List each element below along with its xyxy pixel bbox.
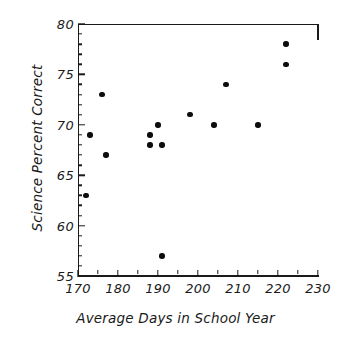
data-point	[223, 82, 228, 87]
scatter-plot-figure: 556065707580 170180190200210220230 Avera…	[0, 0, 351, 341]
data-point	[147, 132, 152, 137]
x-axis-title: Average Days in School Year	[0, 310, 351, 326]
y-axis-title: Science Percent Correct	[29, 48, 45, 248]
data-point	[283, 62, 288, 67]
data-point	[155, 122, 160, 127]
data-point	[87, 132, 92, 137]
y-tick-label: 80	[57, 17, 74, 32]
data-point	[255, 122, 260, 127]
y-tick-label: 75	[57, 67, 74, 82]
x-tick-label: 210	[225, 281, 251, 296]
y-tick-label: 60	[57, 218, 74, 233]
y-tick-label: 70	[57, 117, 74, 132]
x-tick-label: 180	[105, 281, 131, 296]
data-point	[83, 193, 88, 198]
data-point	[283, 41, 288, 46]
data-point	[99, 92, 104, 97]
x-tick-label: 200	[185, 281, 211, 296]
x-tick-label: 170	[65, 281, 91, 296]
data-point	[159, 142, 164, 147]
x-axis-tick-labels: 170180190200210220230	[78, 281, 319, 301]
x-tick-label: 220	[265, 281, 291, 296]
data-point	[187, 112, 192, 117]
y-tick-label: 65	[57, 168, 74, 183]
data-points-layer	[78, 24, 318, 276]
data-point	[159, 253, 164, 258]
x-tick-label: 190	[145, 281, 171, 296]
data-point	[211, 122, 216, 127]
data-point	[103, 152, 108, 157]
x-tick-label: 230	[305, 281, 331, 296]
data-point	[147, 142, 152, 147]
